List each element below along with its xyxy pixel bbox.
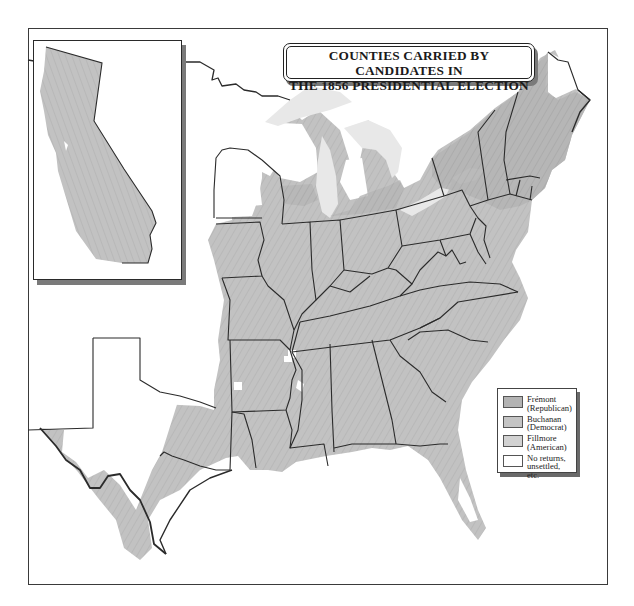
legend-sublabel: (Democrat) (527, 422, 567, 432)
legend-item-fremont: Frémont (Republican) (503, 395, 572, 415)
legend-sublabel: (American) (527, 442, 567, 452)
legend-item-fillmore: Fillmore (American) (503, 434, 572, 454)
legend-item-no-returns: No returns, unsettled, etc. (503, 454, 572, 474)
california-inset (33, 40, 182, 280)
fremont-swatch (503, 396, 523, 408)
fillmore-swatch (503, 435, 523, 447)
buchanan-swatch (503, 416, 523, 428)
no-returns-swatch (503, 455, 523, 467)
legend-sublabel: unsettled, etc. (527, 461, 560, 480)
california-map (34, 41, 180, 278)
map-title: COUNTIES CARRIED BY CANDIDATES IN THE 18… (283, 43, 535, 82)
legend-item-buchanan: Buchanan (Democrat) (503, 415, 572, 435)
title-line-2: THE 1856 PRESIDENTIAL ELECTION (284, 78, 534, 93)
title-line-1: COUNTIES CARRIED BY CANDIDATES IN (284, 48, 534, 78)
legend-sublabel: (Republican) (527, 403, 572, 413)
legend: Frémont (Republican) Buchanan (Democrat)… (497, 388, 577, 473)
